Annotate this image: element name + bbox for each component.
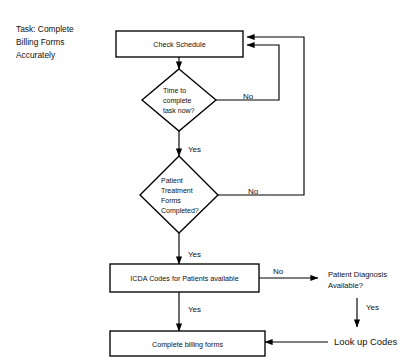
title-line-1: Task: Complete bbox=[16, 24, 74, 34]
diagnosis-line-1: Patient Diagnosis bbox=[328, 270, 387, 279]
node-forms-decision[interactable]: Patient Treatment Forms Completed? bbox=[140, 156, 218, 233]
complete-billing-label: Complete billing forms bbox=[152, 340, 224, 349]
forms-decision-line-2: Treatment bbox=[161, 187, 193, 194]
time-decision-line-3: task now? bbox=[163, 107, 195, 114]
forms-decision-line-3: Forms bbox=[161, 197, 181, 204]
node-look-up-codes[interactable]: Look up Codes bbox=[334, 336, 397, 347]
edge-label-forms-no: No bbox=[248, 187, 259, 196]
forms-decision-line-4: Completed? bbox=[161, 207, 199, 215]
node-icda-codes[interactable]: ICDA Codes for Patients available bbox=[110, 264, 259, 292]
edge-forms-no-loopback bbox=[215, 37, 304, 195]
edge-label-diagnosis-yes: Yes bbox=[366, 303, 379, 312]
forms-decision-line-1: Patient bbox=[161, 177, 183, 184]
node-complete-billing[interactable]: Complete billing forms bbox=[110, 331, 265, 356]
diagnosis-line-2: Available? bbox=[328, 281, 363, 290]
edge-label-time-no: No bbox=[243, 92, 254, 101]
title-line-2: Billing Forms bbox=[16, 37, 64, 47]
title-line-3: Accurately bbox=[16, 50, 56, 60]
time-decision-line-2: complete bbox=[163, 97, 192, 105]
icda-label: ICDA Codes for Patients available bbox=[130, 274, 238, 283]
look-up-codes-label: Look up Codes bbox=[334, 336, 397, 347]
edge-label-time-yes: Yes bbox=[188, 145, 201, 154]
edge-label-icda-yes: Yes bbox=[188, 305, 201, 314]
diagram-title: Task: Complete Billing Forms Accurately bbox=[16, 24, 74, 60]
node-patient-diagnosis[interactable]: Patient Diagnosis Available? bbox=[328, 270, 387, 290]
node-check-schedule[interactable]: Check Schedule bbox=[116, 31, 243, 57]
time-decision-line-1: Time to bbox=[163, 87, 186, 94]
flowchart-canvas: Task: Complete Billing Forms Accurately … bbox=[0, 0, 412, 362]
edge-label-icda-no: No bbox=[273, 267, 284, 276]
edge-label-forms-yes: Yes bbox=[188, 250, 201, 259]
node-time-decision[interactable]: Time to complete task now? bbox=[142, 69, 216, 131]
check-schedule-label: Check Schedule bbox=[153, 40, 205, 49]
forms-decision-diamond[interactable] bbox=[140, 156, 218, 233]
